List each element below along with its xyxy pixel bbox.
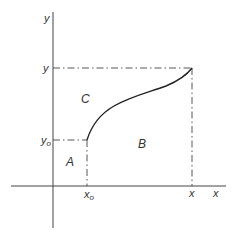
- y0-tick-label: yo: [40, 134, 52, 148]
- function-curve: [87, 68, 192, 140]
- x-tick-label: x: [188, 187, 195, 199]
- x0-tick-label: xo: [83, 188, 95, 202]
- region-c-label: C: [81, 92, 90, 106]
- region-a-label: A: [65, 155, 74, 169]
- diagram-canvas: y x y yo xo x C A B: [0, 0, 237, 237]
- y-tick-label: y: [42, 62, 50, 74]
- region-b-label: B: [138, 137, 146, 151]
- x-axis-label: x: [212, 187, 219, 199]
- y-axis-label: y: [43, 12, 51, 24]
